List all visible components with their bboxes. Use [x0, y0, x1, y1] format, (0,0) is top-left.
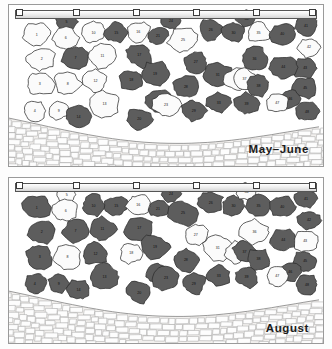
scale-tick-5	[309, 182, 316, 189]
scale-bar-august	[15, 183, 317, 192]
mosaic-cell-18	[119, 71, 143, 90]
scale-bar-may-june	[15, 10, 317, 19]
mosaic-cell-48	[296, 275, 317, 295]
scale-tick-4	[253, 182, 260, 189]
scale-tick-1	[73, 9, 80, 16]
scale-tick-0	[16, 9, 23, 16]
panel-caption-august: August	[266, 322, 309, 334]
mosaic-cell-38	[248, 249, 270, 270]
panel-august: 1234567891011121314151617181920212223242…	[8, 177, 324, 344]
scale-tick-3	[193, 9, 200, 16]
scale-tick-5	[309, 9, 316, 16]
scale-tick-2	[133, 9, 140, 16]
mosaic-map-august: 1234567891011121314151617181920212223242…	[9, 178, 323, 343]
scale-tick-3	[193, 182, 200, 189]
mosaic-cell-13	[90, 90, 119, 118]
scale-tick-1	[73, 182, 80, 189]
mosaic-cell-47	[267, 94, 288, 112]
mosaic-cell-43	[292, 231, 318, 251]
figure-root: 1234567891011121314151617181920212223242…	[0, 0, 332, 349]
panel-may-june: 1234567891011121314151617181920212223242…	[8, 4, 324, 167]
panel-caption-may-june: May–June	[249, 143, 309, 155]
mosaic-map-may-june: 1234567891011121314151617181920212223242…	[9, 5, 323, 166]
scale-tick-4	[253, 9, 260, 16]
scale-tick-2	[133, 182, 140, 189]
scale-tick-0	[16, 182, 23, 189]
